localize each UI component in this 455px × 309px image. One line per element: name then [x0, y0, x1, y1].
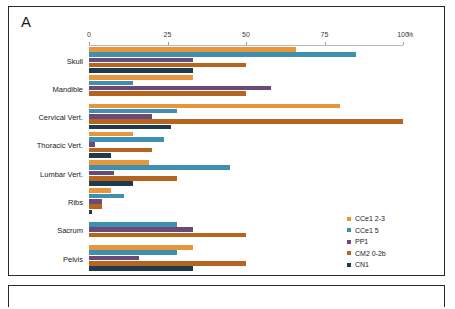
bar-row [89, 47, 403, 52]
bar-row [89, 199, 403, 204]
bar-row [89, 119, 403, 124]
bar-row [89, 68, 403, 73]
bar [89, 109, 177, 114]
bar [89, 91, 246, 96]
legend-item[interactable]: PP1 [347, 236, 439, 248]
legend-label: CCe1 2-3 [355, 215, 385, 222]
category-label: Pelvis [63, 254, 83, 263]
bar-group: Cervical Vert. [89, 104, 403, 131]
bar [89, 81, 133, 86]
bar [89, 148, 152, 153]
legend-label: CM2 0-2b [355, 250, 386, 257]
bar-row [89, 153, 403, 158]
bar [89, 142, 95, 147]
legend-swatch [347, 251, 351, 255]
legend-item[interactable]: CN1 [347, 259, 439, 271]
panel-label: A [21, 13, 32, 30]
bar-row [89, 81, 403, 86]
x-axis-tick-mark [168, 42, 169, 45]
x-axis-tick-label: 75 [321, 31, 329, 38]
bar [89, 204, 102, 209]
bar [89, 86, 271, 91]
x-axis-line [89, 45, 403, 46]
legend-item[interactable]: CCe1 2-3 [347, 213, 439, 225]
category-label: Sacrum [57, 226, 83, 235]
bar [89, 125, 171, 130]
bar [89, 63, 246, 68]
category-label: Thoracic Vert. [37, 141, 83, 150]
bar [89, 245, 193, 250]
bar [89, 114, 152, 119]
category-label: Cervical Vert. [38, 113, 83, 122]
legend: CCe1 2-3CCe1 5PP1CM2 0-2bCN1 [347, 213, 439, 271]
bar-row [89, 188, 403, 193]
bar [89, 222, 177, 227]
bar-row [89, 194, 403, 199]
legend-label: CCe1 5 [355, 227, 379, 234]
bar [89, 160, 149, 165]
bar-row [89, 165, 403, 170]
x-axis-tick-mark [89, 42, 90, 45]
bar [89, 266, 193, 271]
bar-row [89, 125, 403, 130]
bar [89, 137, 164, 142]
legend-swatch [347, 228, 351, 232]
bar [89, 52, 356, 57]
x-axis-tick-mark [403, 42, 404, 45]
bar-row [89, 142, 403, 147]
bar [89, 176, 177, 181]
category-label: Lumbar Vert. [40, 169, 83, 178]
category-label: Mandible [53, 84, 83, 93]
bar [89, 256, 139, 261]
bar-row [89, 181, 403, 186]
legend-label: CN1 [355, 261, 369, 268]
bar-group: Thoracic Vert. [89, 132, 403, 159]
bar-row [89, 52, 403, 57]
bar-row [89, 148, 403, 153]
x-axis: % 0255075100 [89, 31, 403, 45]
x-axis-tick-label: 25 [164, 31, 172, 38]
bar [89, 153, 111, 158]
bar-row [89, 96, 403, 101]
legend-swatch [347, 263, 351, 267]
panel-b [8, 285, 445, 307]
category-label: Ribs [68, 197, 83, 206]
bar [89, 199, 102, 204]
bar-row [89, 109, 403, 114]
bar-row [89, 104, 403, 109]
bar-row [89, 114, 403, 119]
bar-row [89, 137, 403, 142]
bar-row [89, 91, 403, 96]
bar [89, 181, 133, 186]
bar [89, 250, 177, 255]
category-label: Skull [67, 56, 83, 65]
bar [89, 210, 92, 215]
legend-item[interactable]: CCe1 5 [347, 225, 439, 237]
bar [89, 233, 246, 238]
x-axis-tick-label: 100 [397, 31, 409, 38]
bar [89, 119, 403, 124]
bar-row [89, 63, 403, 68]
bar-row [89, 86, 403, 91]
bar [89, 188, 111, 193]
bar [89, 227, 193, 232]
bar-row [89, 160, 403, 165]
bar-row [89, 75, 403, 80]
bar [89, 47, 296, 52]
x-axis-tick-label: 50 [242, 31, 250, 38]
x-axis-tick-label: 0 [87, 31, 91, 38]
bar-row [89, 176, 403, 181]
panel-a: A % 0255075100 SkullMandibleCervical Ver… [8, 6, 445, 276]
bar-row [89, 171, 403, 176]
legend-swatch [347, 217, 351, 221]
legend-item[interactable]: CM2 0-2b [347, 248, 439, 260]
legend-swatch [347, 240, 351, 244]
bar [89, 165, 230, 170]
bar-group: Lumbar Vert. [89, 160, 403, 187]
bar [89, 171, 114, 176]
bar [89, 75, 193, 80]
legend-label: PP1 [355, 238, 368, 245]
bar-row [89, 132, 403, 137]
bar-group: Skull [89, 47, 403, 74]
bar-group: Ribs [89, 188, 403, 215]
